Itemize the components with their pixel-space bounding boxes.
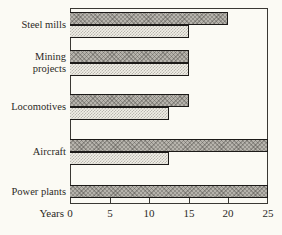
upper-dark-crosshatch-bar bbox=[70, 12, 228, 25]
x-tick-label: 5 bbox=[107, 207, 113, 219]
x-tick-mark bbox=[110, 198, 111, 203]
gestation-period-bar-chart: Years Steel millsMining projectsLocomoti… bbox=[0, 0, 282, 235]
x-tick-label: 20 bbox=[223, 207, 234, 219]
x-tick-mark bbox=[149, 198, 150, 203]
lower-light-stipple-bar bbox=[70, 107, 169, 120]
x-tick-label: 0 bbox=[67, 207, 73, 219]
upper-dark-crosshatch-bar bbox=[70, 94, 189, 107]
x-tick-label: 25 bbox=[263, 207, 274, 219]
lower-light-stipple-bar bbox=[70, 152, 169, 165]
category-label: Power plants bbox=[4, 185, 66, 197]
x-tick-label: 10 bbox=[144, 207, 155, 219]
upper-dark-crosshatch-bar bbox=[70, 139, 268, 152]
category-label: Aircraft bbox=[4, 146, 66, 158]
x-axis-title: Years bbox=[4, 207, 64, 219]
lower-light-stipple-bar bbox=[70, 63, 189, 76]
upper-dark-crosshatch-bar bbox=[70, 50, 189, 63]
category-label: Mining projects bbox=[4, 51, 66, 76]
upper-dark-crosshatch-bar bbox=[70, 185, 268, 198]
x-tick-mark bbox=[189, 198, 190, 203]
x-tick-label: 15 bbox=[184, 207, 195, 219]
x-tick-mark bbox=[228, 198, 229, 203]
lower-light-stipple-bar bbox=[70, 25, 189, 38]
category-label: Steel mills bbox=[4, 19, 66, 31]
category-label: Locomotives bbox=[4, 101, 66, 113]
